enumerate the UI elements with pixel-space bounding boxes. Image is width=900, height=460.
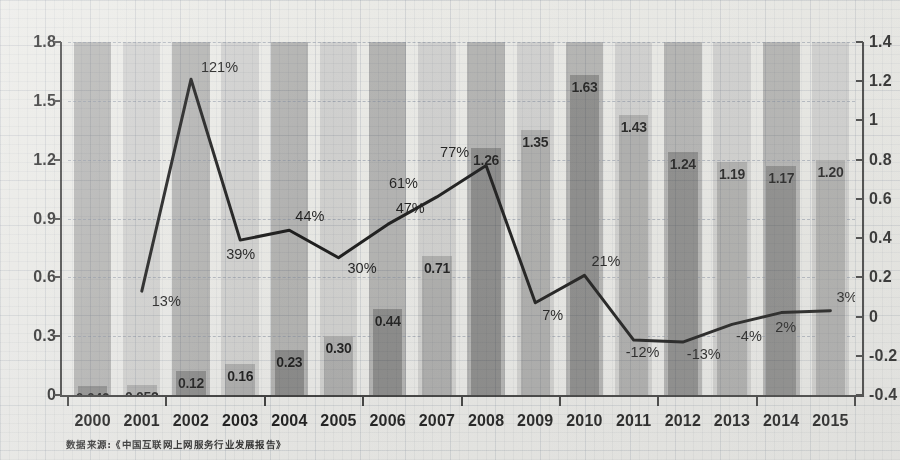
growth-rate-label: -12% [626,344,660,360]
left-axis-tick-mark [54,41,61,43]
right-axis-tick-label: 0.8 [869,151,892,169]
category-label: 2003 [222,412,258,430]
category-tick-mark [362,397,364,406]
growth-rate-label: 44% [295,208,324,224]
category-label: 2012 [665,412,701,430]
category-label: 2011 [616,412,652,430]
bar-value-label: 0.16 [227,368,253,384]
left-axis-tick-mark [54,394,61,396]
bar-value-label: 0.12 [178,375,204,391]
category-label: 2005 [320,412,356,430]
bar-value-label: 0.71 [424,260,450,276]
category-label: 2000 [74,412,110,430]
growth-rate-label: 39% [226,246,255,262]
growth-rate-label: 121% [201,59,238,75]
right-value-axis: -0.4-0.200.20.40.60.811.21.4 [869,42,900,395]
right-axis-tick-label: 1.2 [869,72,892,90]
bar-value-label: 1.63 [571,79,597,95]
growth-rate-label: 3% [836,289,855,305]
right-axis-tick-label: -0.2 [869,347,897,365]
category-label: 2002 [173,412,209,430]
left-axis-tick-mark [54,100,61,102]
bar-value-label: 1.24 [670,156,696,172]
left-axis-tick-label: 0.9 [33,210,56,228]
right-axis-tick-label: 1.4 [869,33,892,51]
left-axis-tick-mark [54,276,61,278]
category-label: 2004 [271,412,307,430]
left-axis-tick-label: 0.6 [33,268,56,286]
category-tick-mark [165,397,167,406]
bar-value-label: 1.35 [522,134,548,150]
category-label: 2006 [370,412,406,430]
category-label: 2013 [714,412,750,430]
category-label: 2009 [517,412,553,430]
plot-area: 0.0460.0520.120.160.230.300.440.711.261.… [68,42,855,395]
growth-rate-label: 7% [542,307,563,323]
left-axis-tick-label: 1.5 [33,92,56,110]
growth-rate-label: 21% [591,253,620,269]
left-axis-tick-label: 0.3 [33,327,56,345]
left-axis-line [60,42,62,397]
right-axis-line [862,42,864,397]
source-caption: 数据来源:《中国互联网上网服务行业发展报告》 [66,437,286,451]
growth-rate-label: 13% [152,293,181,309]
right-axis-tick-label: -0.4 [869,386,897,404]
left-axis-tick-mark [54,335,61,337]
bar-value-label: 1.19 [719,166,745,182]
right-axis-tick-label: 0 [869,308,878,326]
category-label: 2001 [124,412,160,430]
left-axis-tick-label: 1.8 [33,33,56,51]
growth-rate-label: 47% [396,200,425,216]
growth-rate-label: 61% [389,175,418,191]
category-tick-mark [657,397,659,406]
category-label: 2015 [812,412,848,430]
growth-rate-label: -13% [687,346,721,362]
category-tick-mark [559,397,561,406]
right-axis-tick-label: 0.2 [869,268,892,286]
bar-value-label: 0.30 [326,340,352,356]
growth-rate-label: 30% [348,260,377,276]
category-label: 2007 [419,412,455,430]
left-axis-tick-label: 1.2 [33,151,56,169]
right-axis-tick-label: 1 [869,111,878,129]
bar-value-label: 1.20 [817,164,843,180]
category-tick-mark [461,397,463,406]
category-label: 2008 [468,412,504,430]
right-axis-tick-label: 0.4 [869,229,892,247]
chart-figure: 00.30.60.91.21.51.8 0.0460.0520.120.160.… [0,0,900,460]
growth-rate-label: -4% [736,328,762,344]
category-tick-mark [264,397,266,406]
left-axis-tick-mark [54,218,61,220]
right-axis-tick-label: 0.6 [869,190,892,208]
category-tick-mark [854,397,856,406]
category-tick-mark [756,397,758,406]
bar-value-label: 1.43 [621,119,647,135]
bar-value-label: 1.17 [768,170,794,186]
bar-value-label: 0.23 [276,354,302,370]
category-tick-mark [67,397,69,406]
category-label: 2014 [763,412,799,430]
category-label: 2010 [566,412,602,430]
growth-rate-polyline [142,79,831,342]
growth-rate-label: 77% [440,144,469,160]
left-axis-tick-mark [54,159,61,161]
bar-value-label: 0.44 [375,313,401,329]
bar-value-label: 1.26 [473,152,499,168]
left-value-axis: 00.30.60.91.21.51.8 [0,42,56,395]
growth-rate-label: 2% [775,319,796,335]
